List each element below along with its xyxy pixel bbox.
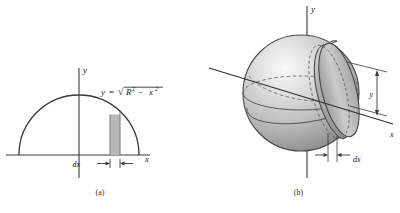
strip-dx-label: dx xyxy=(72,160,80,169)
panel-a-diagram: dx y x y = √ R 2 − x 2 xyxy=(0,0,200,188)
radicand-R-exponent: 2 xyxy=(132,86,135,92)
panel-a: dx y x y = √ R 2 − x 2 (a) xyxy=(0,0,200,213)
dim-arrow-right-head xyxy=(120,162,125,166)
thickness-dx-label: dx xyxy=(353,155,361,164)
differential-strip xyxy=(110,115,120,156)
panel-a-caption: (a) xyxy=(0,188,200,197)
x-axis-label: x xyxy=(389,130,394,139)
y-axis-label: y xyxy=(310,4,315,14)
figure-root: dx y x y = √ R 2 − x 2 (a) xyxy=(0,0,400,213)
thickness-arrow-right-head xyxy=(337,153,342,157)
thickness-arrow-left-head xyxy=(324,153,329,157)
height-y-label: y xyxy=(368,90,373,99)
x-axis-label: x xyxy=(144,154,149,164)
panel-b-diagram: x y y dx xyxy=(197,0,400,188)
height-arrow-up xyxy=(375,70,379,76)
dim-arrow-left-head xyxy=(106,162,111,166)
equation-minus: − xyxy=(138,87,143,97)
radicand-x-exponent: 2 xyxy=(155,86,158,92)
curve-equation: y = √ R 2 − x 2 xyxy=(100,86,163,97)
equation-lhs: y xyxy=(100,87,105,97)
panel-b: x y y dx (b) xyxy=(197,0,400,213)
y-axis-label: y xyxy=(82,65,87,75)
radicand-x: x xyxy=(148,87,153,97)
radicand-R: R xyxy=(125,87,132,97)
radical-sign: √ xyxy=(118,86,124,97)
panel-b-caption: (b) xyxy=(197,188,400,197)
equation-equals: = xyxy=(109,87,114,97)
